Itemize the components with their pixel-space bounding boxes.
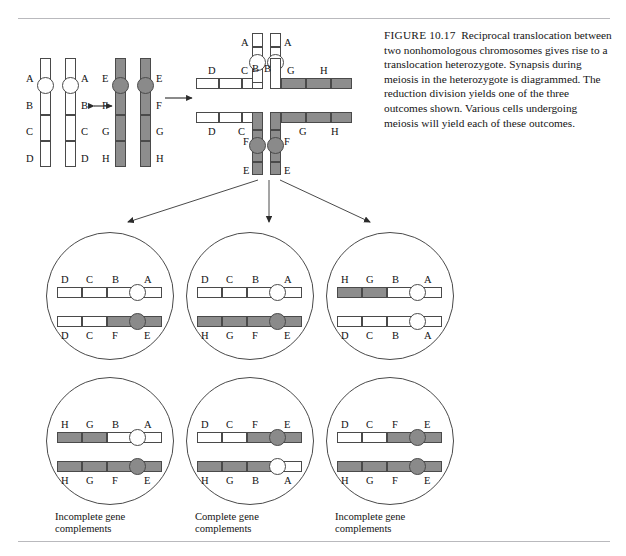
chromatid-segment [197,432,222,443]
page-rule-top [18,18,610,19]
parental-gray-label-left-G: G [102,126,110,137]
outcome-right-bottom-c1-label-F: F [392,419,398,430]
synapsis-label-F-right: F [284,136,290,147]
chromatid-segment [82,432,107,443]
synapsis-label-D-lower: D [208,126,216,137]
outcome-middle-bottom-c1-label-D: D [201,419,209,430]
outcome-left-top-c1-label-C: C [86,274,93,285]
outcome-right-bottom-c2-label-F: F [392,475,398,486]
centromere [37,77,54,94]
chromatid-segment [115,141,126,167]
chromatid-segment [270,33,281,47]
chromatid-segment [337,461,362,472]
chromatid-segment [219,78,242,89]
chromatid-segment [219,112,242,123]
centromere [129,284,146,301]
outcome-left-bottom-c1-label-A: A [144,419,152,430]
centromere [267,137,284,154]
chromatid-segment [281,112,306,123]
chromatid-segment [222,287,247,298]
centromere [112,77,129,94]
outcome-left-bottom-c1-label-B: B [112,419,119,430]
outcome-right-caption-line1: Incomplete gene [335,511,405,523]
outcome-left-bottom-c2-label-G: G [86,475,94,486]
outcome-left-bottom-c1-label-H: H [61,419,69,430]
outcome-middle-caption-line1: Complete gene [195,511,259,523]
centromere [129,458,146,475]
outcome-right-bottom-c1-label-E: E [424,419,430,430]
parental-gray-label-right-H: H [156,153,164,164]
chromatid-segment [140,115,151,141]
outcome-right-top-c2-label-C: C [366,330,373,341]
synapsis-label-D-upper: D [208,65,216,76]
outcome-middle-top-c1-label-D: D [201,274,209,285]
chromatid-segment [222,316,247,327]
outcome-left-top-c2-label-F: F [112,330,118,341]
chromatid-segment [337,287,362,298]
chromatid-segment [362,287,387,298]
outcome-left-bottom-c1-label-G: G [86,419,94,430]
chromatid-segment [65,141,76,167]
outcome-middle-caption: Complete gene complements [195,511,259,536]
outcome-middle-top-c1-label-C: C [226,274,233,285]
outcome-right-bottom-c1-label-C: C [366,419,373,430]
outcome-left-bottom-c2-label-E: E [144,475,150,486]
chromatid-segment [197,461,222,472]
figure-page: FIGURE 10.17 Reciprocal translocation be… [0,0,626,556]
centromere [269,313,286,330]
figure-label: FIGURE [384,29,426,41]
chromatid-segment [140,91,151,115]
centromere [269,458,286,475]
chromatid-segment [57,432,82,443]
chromatid-segment [196,78,219,89]
chromatid-segment [65,91,76,115]
outcome-middle-top-c1-label-B: B [252,274,259,285]
chromatid-segment [57,287,82,298]
outcome-right-top-c1-label-A: A [424,274,432,285]
synapsis-label-B-right: B [264,63,271,74]
chromatid-segment [140,141,151,167]
chromatid-segment [337,432,362,443]
parental-white-label-left-A: A [26,73,34,84]
parental-white-label-left-D: D [26,153,34,164]
synapsis-label-F-left: F [243,136,249,147]
parental-white-label-right-D: D [81,153,89,164]
outcome-right-bottom-c1-label-D: D [341,419,349,430]
centromere [137,77,154,94]
outcome-left-top-c1-label-B: B [112,274,119,285]
chromatid-segment [57,316,82,327]
chromatid-segment [252,33,263,47]
outcome-middle-top-c2-label-F: F [252,330,258,341]
outcome-middle-caption-line2: complements [195,523,259,535]
synapsis-label-E-right: E [284,165,290,176]
synapsis-label-H-lower: H [331,126,339,137]
outcome-left-caption-line1: Incomplete gene [55,511,125,523]
chromatid-segment [82,316,107,327]
chromatid-segment [362,316,387,327]
figure-caption: FIGURE 10.17 Reciprocal translocation be… [384,28,612,130]
centromere [409,284,426,301]
chromatid-segment [331,112,352,123]
chromatid-segment [331,78,352,89]
outcome-middle-bottom-c1-label-F: F [252,419,258,430]
outcome-middle-top-c1-label-A: A [284,274,292,285]
chromatid-segment [115,115,126,141]
chromatid-segment [57,461,82,472]
centromere [249,137,266,154]
chromatid-segment [196,112,219,123]
outcome-right-top-c2-label-A: A [424,330,432,341]
chromatid-segment [40,141,51,167]
outcome-right-top-c1-label-H: H [341,274,349,285]
chromatid-segment [222,461,247,472]
synapsis-label-G-upper: G [287,65,295,76]
chromatid-segment [40,115,51,141]
centromere [409,429,426,446]
figure-caption-text: Reciprocal translocation between two non… [384,29,612,129]
outcome-right-caption-line2: complements [335,523,405,535]
outcome-left-top-c1-label-A: A [144,274,152,285]
outcome-middle-bottom-c2-label-G: G [226,475,234,486]
centromere [129,313,146,330]
chromatid-segment [82,287,107,298]
chromatid-segment [362,432,387,443]
chromatid-segment [306,112,331,123]
